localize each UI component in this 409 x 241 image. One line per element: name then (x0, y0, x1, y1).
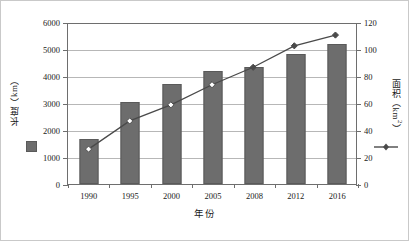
x-axis-tick-label: 2012 (287, 191, 304, 201)
right-axis-tick (356, 77, 361, 78)
left-axis-tick-label: 6000 (43, 18, 60, 28)
x-axis-tick (317, 184, 318, 188)
right-axis-title-unit-post: ） (391, 124, 401, 134)
right-axis-tick (356, 104, 361, 105)
line-marker (168, 102, 174, 108)
left-axis-tick-label: 5000 (43, 45, 60, 55)
line-series (68, 23, 356, 184)
x-axis-tick (234, 184, 235, 188)
right-axis-tick (356, 131, 361, 132)
x-axis-title: 年份 (1, 206, 408, 220)
x-axis-tick-label: 2000 (163, 191, 180, 201)
x-axis-tick (358, 184, 359, 188)
x-axis-tick-label: 2008 (246, 191, 263, 201)
right-axis-title: 面积（km2） (390, 79, 404, 133)
x-axis-tick (151, 184, 152, 188)
x-axis-tick (192, 184, 193, 188)
right-axis-tick-label: 120 (364, 18, 377, 28)
line-marker (209, 82, 215, 88)
right-axis-tick (356, 50, 361, 51)
left-axis-tick-label: 0 (56, 180, 60, 190)
left-axis-title-unit: （km） (9, 75, 19, 107)
left-axis-tick-label: 2000 (43, 126, 60, 136)
x-axis-tick (68, 184, 69, 188)
right-axis-tick-label: 60 (364, 99, 373, 109)
right-axis-tick (356, 158, 361, 159)
line-marker (291, 43, 297, 49)
legend-bar-swatch (26, 141, 37, 152)
line-marker (332, 32, 338, 38)
left-axis-tick-label: 1000 (43, 153, 60, 163)
chart-figure: 长度（km） 面积（km2） 年份 0100020003000400050006… (0, 0, 409, 241)
right-axis-title-main: 面积 (391, 79, 401, 98)
legend-line-marker (373, 142, 399, 152)
right-axis-tick-label: 20 (364, 153, 373, 163)
right-axis-tick-label: 0 (364, 180, 368, 190)
left-axis-title: 长度（km） (7, 75, 20, 126)
right-axis-title-unit-pre: （km (391, 98, 401, 120)
x-axis-tick-label: 1995 (122, 191, 139, 201)
left-axis-tick-label: 3000 (43, 99, 60, 109)
x-axis-tick (275, 184, 276, 188)
plot-area: 0100020003000400050006000 02040608010012… (67, 23, 357, 185)
left-axis-title-main: 长度 (9, 107, 19, 126)
line-marker (250, 64, 256, 70)
line-path (89, 35, 336, 149)
right-axis-tick-label: 40 (364, 126, 373, 136)
x-axis-tick-label: 2005 (205, 191, 222, 201)
left-axis-tick-label: 4000 (43, 72, 60, 82)
right-axis-tick-label: 100 (364, 45, 377, 55)
x-axis-tick-label: 1990 (80, 191, 97, 201)
x-axis-tick-label: 2016 (329, 191, 346, 201)
right-axis-tick (356, 23, 361, 24)
right-axis-tick-label: 80 (364, 72, 373, 82)
x-axis-tick (109, 184, 110, 188)
